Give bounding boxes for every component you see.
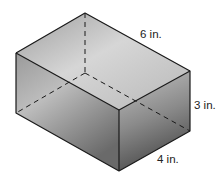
height-label: 3 in. — [194, 99, 216, 111]
rectangular-prism-diagram: 6 in. 3 in. 4 in. — [0, 0, 222, 181]
length-label: 6 in. — [140, 28, 162, 40]
width-label: 4 in. — [157, 153, 179, 165]
